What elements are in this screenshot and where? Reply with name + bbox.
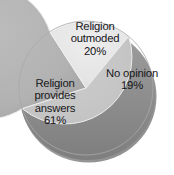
pie-label-no-opinion: No opinion 19% xyxy=(98,68,166,93)
pie-label-religion-outmoded: Religion outmoded 20% xyxy=(62,21,128,58)
pie-label-religion-provides-answers: Religion provides answers 61% xyxy=(22,78,88,128)
pie-chart: Religion outmoded 20% No opinion 19% Rel… xyxy=(0,0,174,175)
